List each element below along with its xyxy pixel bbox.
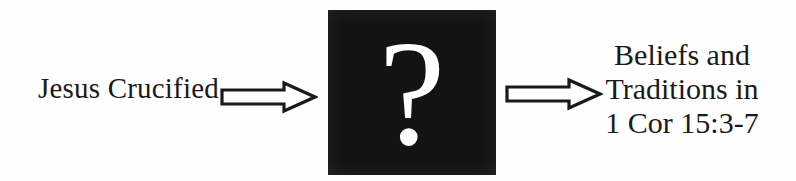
diagram-canvas: Jesus Crucified ? Beliefs and Traditions…	[0, 0, 796, 181]
question-mark: ?	[328, 18, 496, 168]
right-arrow-icon	[505, 77, 603, 111]
right-arrow-icon	[220, 80, 318, 114]
process-box: ?	[328, 10, 496, 175]
output-label: Beliefs and Traditions in 1 Cor 15:3-7	[598, 38, 766, 140]
input-label: Jesus Crucified	[38, 74, 219, 103]
